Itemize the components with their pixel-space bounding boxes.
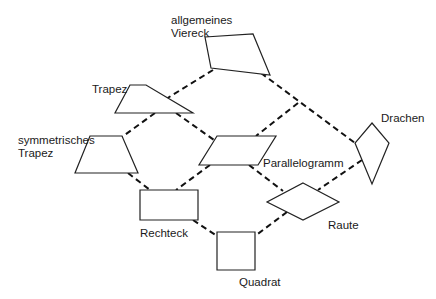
edge-parallelogramm-rechteck	[176, 165, 210, 190]
shapes	[75, 34, 389, 270]
edge-viereck-trapez	[166, 70, 213, 99]
rhombus-shape	[267, 183, 339, 220]
label-parallelogramm: Parallelogramm	[263, 157, 344, 170]
label-viereck: allgemeines Viereck	[171, 14, 232, 40]
label-quadrat: Quadrat	[239, 276, 281, 289]
rectangle-shape	[140, 190, 198, 220]
edge-viereck-drachen	[261, 73, 355, 143]
square-shape	[217, 232, 255, 270]
edge-rechteck-quadrat	[193, 220, 217, 236]
edge-raute-quadrat	[255, 212, 287, 236]
edge-trapez-sym-trapez	[122, 113, 155, 137]
edge-sym-trapez-rechteck	[128, 173, 150, 190]
quadrilateral-shape	[205, 34, 270, 75]
edge-mid-parallelogramm	[256, 103, 298, 136]
label-sym-trapez: symmetrisches Trapez	[18, 134, 95, 160]
edge-trapez-parallelogramm	[176, 113, 214, 140]
label-rechteck: Rechteck	[140, 227, 188, 240]
label-trapez: Trapez	[92, 83, 127, 96]
kite-shape	[355, 123, 389, 184]
label-raute: Raute	[328, 219, 359, 232]
label-drachen: Drachen	[381, 112, 424, 125]
